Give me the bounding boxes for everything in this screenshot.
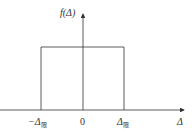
tick-main: 0 <box>80 116 85 127</box>
tick-label-neg-limit: −Δ限 <box>28 117 47 128</box>
uniform-distribution-rectangle <box>41 47 124 110</box>
tick-main: −Δ <box>28 116 41 127</box>
x-axis-label: Δ <box>177 117 183 127</box>
tick-sub: 限 <box>41 122 47 128</box>
tick-label-pos-limit: Δ限 <box>117 117 129 128</box>
y-axis-label: f(Δ) <box>60 8 75 18</box>
tick-label-zero: 0 <box>80 117 85 127</box>
tick-sub: 限 <box>123 122 129 128</box>
